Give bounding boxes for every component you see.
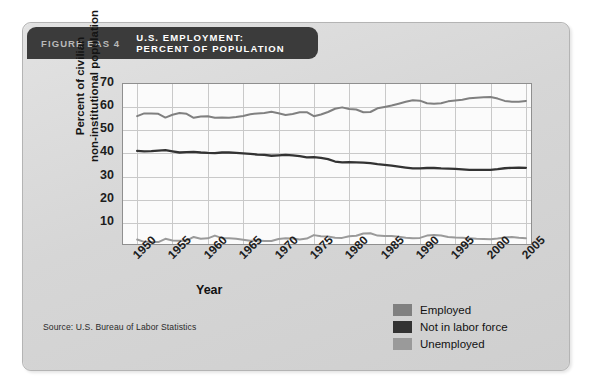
y-axis-tick-label: 20 xyxy=(88,191,114,205)
series-line-employed xyxy=(137,97,526,118)
y-axis-tick-label: 10 xyxy=(88,214,114,228)
legend-item: Not in labor force xyxy=(393,318,508,335)
series-lines xyxy=(123,84,533,246)
legend: EmployedNot in labor forceUnemployed xyxy=(393,301,508,352)
legend-swatch xyxy=(393,338,412,350)
y-axis-tick-label: 70 xyxy=(88,75,114,89)
legend-item: Employed xyxy=(393,301,508,318)
legend-swatch xyxy=(393,304,412,316)
plot-area xyxy=(122,83,532,245)
legend-label: Not in labor force xyxy=(420,321,508,333)
y-axis-tick-label: 30 xyxy=(88,168,114,182)
y-axis-tick-label: 60 xyxy=(88,98,114,112)
legend-swatch xyxy=(393,321,412,333)
source-note: Source: U.S. Bureau of Labor Statistics xyxy=(43,322,196,332)
x-axis-label: Year xyxy=(196,283,222,297)
figure-title-line-1: U.S. EMPLOYMENT: xyxy=(136,32,285,44)
legend-item: Unemployed xyxy=(393,335,508,352)
y-axis-tick-label: 50 xyxy=(88,121,114,135)
legend-label: Employed xyxy=(420,304,471,316)
figure-title-line-2: PERCENT OF POPULATION xyxy=(136,43,285,55)
y-axis-label-line-1: Percent of civilian xyxy=(73,0,87,181)
figure-title: U.S. EMPLOYMENT: PERCENT OF POPULATION xyxy=(136,32,285,55)
legend-label: Unemployed xyxy=(420,338,485,350)
series-line-not-in-labor-force xyxy=(137,150,526,170)
figure-screenshot: FIGURE EAS 4 U.S. EMPLOYMENT: PERCENT OF… xyxy=(0,0,594,388)
y-axis-tick-label: 40 xyxy=(88,144,114,158)
figure-title-bar: FIGURE EAS 4 U.S. EMPLOYMENT: PERCENT OF… xyxy=(27,27,318,59)
